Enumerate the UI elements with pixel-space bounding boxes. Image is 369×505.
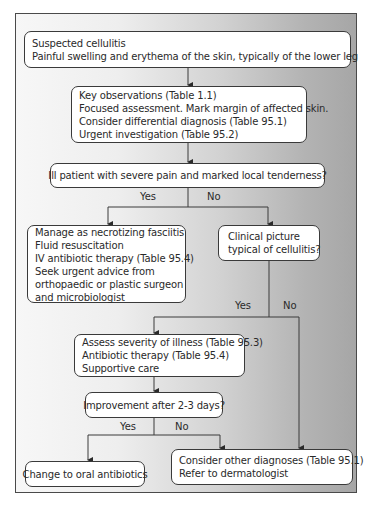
necrotizing-line: orthopaedic or plastic surgeon (35, 278, 178, 291)
clinical-yes-label: Yes (235, 300, 251, 311)
start-title: Suspected cellulitis (32, 37, 343, 50)
other-diagnoses-box: Consider other diagnoses (Table 95.1) Re… (171, 449, 353, 485)
ill-no-label: No (207, 191, 220, 202)
ill-patient-question: Ill patient with severe pain and marked … (48, 169, 326, 182)
necrotizing-fasciitis-box: Manage as necrotizing fasciitis Fluid re… (27, 225, 186, 303)
clinical-question-line: typical of cellulitis? (228, 243, 310, 256)
key-observations-line: Focused assessment. Mark margin of affec… (79, 102, 299, 115)
assess-line: Antibiotic therapy (Table 95.4) (82, 349, 237, 362)
improvement-question: Improvement after 2-3 days? (83, 399, 225, 412)
clinical-no-label: No (283, 300, 296, 311)
start-box: Suspected cellulitis Painful swelling an… (24, 31, 351, 68)
necrotizing-line: Fluid resuscitation (35, 239, 178, 252)
assess-line: Supportive care (82, 362, 237, 375)
other-diagnoses-line: Refer to dermatologist (179, 467, 345, 480)
improvement-question-box: Improvement after 2-3 days? (85, 392, 223, 418)
other-diagnoses-line: Consider other diagnoses (Table 95.1) (179, 454, 345, 467)
key-observations-line: Key observations (Table 1.1) (79, 89, 299, 102)
necrotizing-line: Manage as necrotizing fasciitis (35, 226, 178, 239)
necrotizing-line: IV antibiotic therapy (Table 95.4) (35, 252, 178, 265)
key-observations-box: Key observations (Table 1.1) Focused ass… (71, 86, 307, 143)
ill-yes-label: Yes (140, 191, 156, 202)
clinical-question-line: Clinical picture (228, 230, 310, 243)
improvement-no-label: No (175, 421, 188, 432)
necrotizing-line: Seek urgent advice from (35, 265, 178, 278)
key-observations-line: Consider differential diagnosis (Table 9… (79, 115, 299, 128)
assess-line: Assess severity of illness (Table 95.3) (82, 336, 237, 349)
improvement-yes-label: Yes (120, 421, 136, 432)
key-observations-line: Urgent investigation (Table 95.2) (79, 128, 299, 141)
oral-antibiotics-box: Change to oral antibiotics (25, 461, 145, 487)
assess-severity-box: Assess severity of illness (Table 95.3) … (74, 334, 245, 377)
ill-patient-question-box: Ill patient with severe pain and marked … (50, 163, 325, 188)
necrotizing-line: and microbiologist (35, 291, 178, 304)
clinical-picture-question-box: Clinical picture typical of cellulitis? (218, 225, 320, 261)
start-description: Painful swelling and erythema of the ski… (32, 50, 343, 63)
oral-antibiotics-text: Change to oral antibiotics (23, 468, 148, 481)
